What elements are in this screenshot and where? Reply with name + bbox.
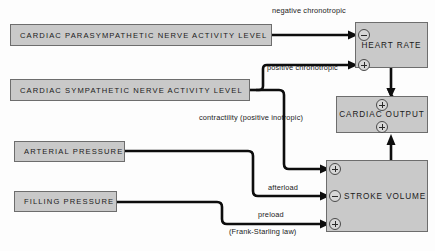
edge-label-frank-starling-law: (Frank-Starling law) <box>229 227 296 236</box>
port-plus-cardiac-output-from-stroke-volume <box>376 121 388 133</box>
node-filling-pressure[interactable]: FILLING PRESSURE <box>14 191 117 212</box>
edge-label-preload: preload <box>258 210 284 219</box>
node-stroke-volume[interactable]: STROKE VOLUME <box>326 160 428 232</box>
edge-label-positive-chronotropic: positive chronotropic <box>267 63 338 72</box>
node-cardiac-parasympathetic-nerve-activity-level[interactable]: CARDIAC PARASYMPATHETIC NERVE ACTIVITY L… <box>10 24 272 46</box>
edge-label-negative-chronotropic: negative chronotropic <box>272 6 346 15</box>
port-plus-heart-rate-positive-chronotropic <box>358 59 370 71</box>
node-label: ARTERIAL PRESSURE <box>24 147 123 156</box>
node-arterial-pressure[interactable]: ARTERIAL PRESSURE <box>14 141 125 162</box>
node-label: HEART RATE <box>362 41 422 50</box>
port-plus-stroke-volume-preload <box>329 218 341 230</box>
node-cardiac-sympathetic-nerve-activity-level[interactable]: CARDIAC SYMPATHETIC NERVE ACTIVITY LEVEL <box>10 79 250 101</box>
node-label: CARDIAC PARASYMPATHETIC NERVE ACTIVITY L… <box>20 31 267 40</box>
edge-label-contractility: contractility (positive inotropic) <box>199 113 303 122</box>
node-label: CARDIAC SYMPATHETIC NERVE ACTIVITY LEVEL <box>20 86 243 95</box>
node-label: STROKE VOLUME <box>328 192 426 201</box>
port-minus-stroke-volume-afterload <box>329 190 341 202</box>
edge-label-afterload: afterload <box>268 183 298 192</box>
node-label: CARDIAC OUTPUT <box>339 110 424 119</box>
port-plus-cardiac-output-from-heart-rate <box>376 99 388 111</box>
port-minus-heart-rate-negative-chronotropic <box>358 29 370 41</box>
cardiovascular-block-diagram: CARDIAC PARASYMPATHETIC NERVE ACTIVITY L… <box>0 0 435 251</box>
node-label: FILLING PRESSURE <box>24 197 114 206</box>
port-plus-stroke-volume-contractility <box>329 163 341 175</box>
